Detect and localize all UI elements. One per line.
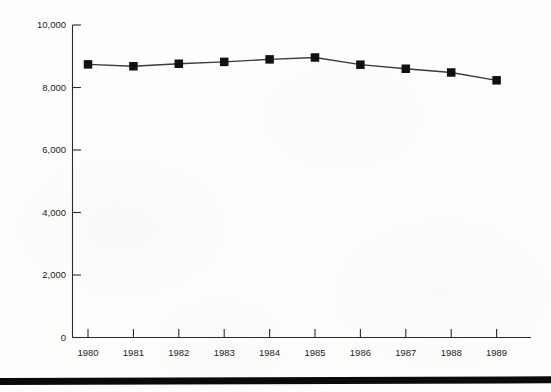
- y-tick-label: 2,000: [42, 269, 66, 280]
- x-tick-label: 1983: [214, 347, 235, 358]
- y-tick-label: 0: [61, 332, 66, 343]
- x-tick-label: 1987: [395, 347, 416, 358]
- y-tick-label-group: 02,0004,0006,0008,00010,000: [37, 19, 66, 343]
- y-tick-label: 4,000: [42, 207, 66, 218]
- line-chart: 02,0004,0006,0008,00010,000 198019811982…: [0, 0, 551, 392]
- x-tick-label: 1982: [168, 347, 189, 358]
- data-point-marker: [220, 58, 229, 67]
- x-tick-label: 1980: [77, 347, 98, 358]
- data-point-marker: [175, 60, 184, 69]
- data-point-marker: [402, 65, 411, 74]
- x-tick-label: 1986: [350, 347, 371, 358]
- x-tick-label: 1981: [123, 347, 144, 358]
- series-line: [88, 58, 497, 81]
- chart-page: 02,0004,0006,0008,00010,000 198019811982…: [0, 0, 551, 392]
- y-tick-group: [73, 25, 82, 338]
- data-point-marker: [311, 53, 320, 62]
- data-point-marker: [356, 60, 365, 69]
- data-point-marker: [492, 76, 501, 85]
- x-tick-label: 1989: [486, 347, 507, 358]
- data-point-marker: [129, 62, 138, 71]
- data-point-marker: [265, 55, 274, 64]
- data-point-marker: [84, 60, 93, 69]
- data-point-marker: [447, 68, 456, 77]
- x-tick-label: 1985: [304, 347, 325, 358]
- x-tick-label: 1988: [441, 347, 462, 358]
- y-tick-label: 6,000: [42, 144, 66, 155]
- x-tick-label-group: 1980198119821983198419851986198719881989: [77, 347, 507, 358]
- y-tick-label: 10,000: [37, 19, 66, 30]
- x-tick-label: 1984: [259, 347, 280, 358]
- x-tick-group: [88, 329, 497, 338]
- y-tick-label: 8,000: [42, 82, 66, 93]
